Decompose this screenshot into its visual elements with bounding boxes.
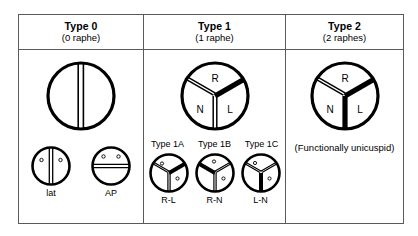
valve-diagram-1c bbox=[240, 152, 282, 194]
header-cell-type-2: Type 2 (2 raphes) bbox=[285, 15, 403, 49]
type-1-variant-1b: R-N bbox=[194, 152, 236, 205]
type-0-variant-ap: AP bbox=[90, 145, 132, 198]
cusp-label-n: N bbox=[196, 104, 203, 115]
type-0-variant-lat: lat bbox=[30, 145, 72, 198]
cusp-label-l: L bbox=[227, 104, 233, 115]
cusp-label-l: L bbox=[357, 104, 363, 115]
header-title-type-1: Type 1 bbox=[198, 20, 231, 32]
column-type-0: lat AP bbox=[19, 50, 143, 223]
valve-diagram-lat bbox=[30, 145, 72, 187]
type-1a-header: Type 1A bbox=[144, 139, 191, 149]
header-cell-type-1: Type 1 (1 raphe) bbox=[143, 15, 285, 49]
type-1b-label: R-N bbox=[207, 195, 223, 205]
header-title-type-0: Type 0 bbox=[64, 20, 97, 32]
valve-diagram-type-0-main bbox=[44, 59, 118, 133]
valve-diagram-type-1-main: R N L bbox=[178, 59, 252, 133]
column-type-1: R N L Type 1A Type 1B Type 1C bbox=[143, 50, 285, 223]
type-2-note: (Functionally unicuspid) bbox=[286, 142, 403, 153]
valve-diagram-ap bbox=[90, 145, 132, 187]
header-subtitle-type-0: (0 raphe) bbox=[62, 33, 101, 44]
type-0-variant-ap-label: AP bbox=[105, 188, 117, 198]
type-0-variant-row: lat AP bbox=[19, 145, 143, 198]
type-1c-label: L-N bbox=[253, 195, 268, 205]
cusp-label-r: R bbox=[341, 73, 348, 84]
header-row: Type 0 (0 raphe) Type 1 (1 raphe) Type 2… bbox=[19, 15, 403, 50]
type-1-variant-row: R-L R-N bbox=[144, 152, 285, 205]
type-1-variant-1a: R-L bbox=[148, 152, 190, 205]
header-cell-type-0: Type 0 (0 raphe) bbox=[19, 15, 143, 49]
type-1a-label: R-L bbox=[161, 195, 176, 205]
header-title-type-2: Type 2 bbox=[328, 20, 361, 32]
header-subtitle-type-1: (1 raphe) bbox=[195, 33, 234, 44]
bicuspid-valve-classification-figure: Type 0 (0 raphe) Type 1 (1 raphe) Type 2… bbox=[18, 14, 404, 224]
type-1b-header: Type 1B bbox=[191, 139, 238, 149]
type-1-variant-1c: L-N bbox=[240, 152, 282, 205]
header-subtitle-type-2: (2 raphes) bbox=[323, 33, 366, 44]
valve-diagram-1b bbox=[194, 152, 236, 194]
type-1-variant-headers: Type 1A Type 1B Type 1C bbox=[144, 139, 285, 149]
column-type-2: R N L (Functionally unicuspid) bbox=[285, 50, 403, 223]
cusp-label-r: R bbox=[211, 73, 218, 84]
type-1c-header: Type 1C bbox=[238, 139, 285, 149]
valve-diagram-type-2-main: R N L bbox=[308, 59, 382, 133]
cusp-label-n: N bbox=[326, 104, 333, 115]
type-0-variant-lat-label: lat bbox=[46, 188, 56, 198]
valve-diagram-1a bbox=[148, 152, 190, 194]
body-row: lat AP bbox=[19, 50, 403, 223]
